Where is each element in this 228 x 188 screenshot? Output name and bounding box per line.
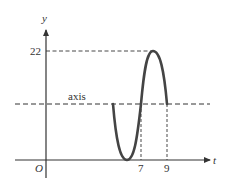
axis-label: axis — [68, 90, 86, 102]
x-tick-9: 9 — [164, 162, 170, 174]
y-axis-label: y — [41, 12, 47, 24]
x-tick-7: 7 — [138, 162, 144, 174]
origin-label: O — [35, 162, 43, 174]
sinusoid-curve — [113, 51, 167, 160]
y-tick-22: 22 — [30, 45, 41, 57]
t-axis-label: t — [213, 154, 217, 166]
graph-canvas: y 22 axis O 7 9 t — [0, 0, 228, 188]
